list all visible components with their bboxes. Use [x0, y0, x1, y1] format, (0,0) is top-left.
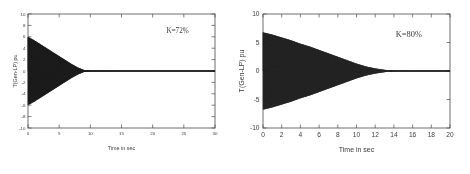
- y-tick-label: 8: [23, 23, 26, 28]
- x-tick-label: 12: [372, 131, 380, 138]
- y-tick-label: 5: [256, 39, 260, 46]
- x-tick-label: 14: [390, 131, 398, 138]
- damped-oscillation-chart-left: 051015202530-10-8-6-4-20246810K=72%Time …: [0, 0, 228, 174]
- y-tick-label: -6: [22, 103, 26, 108]
- y-tick-label: 2: [23, 57, 26, 62]
- x-tick-label: 4: [299, 131, 303, 138]
- y-tick-label: -4: [22, 91, 26, 96]
- x-tick-label: 6: [317, 131, 321, 138]
- x-tick-label: 16: [409, 131, 417, 138]
- y-tick-label: 10: [252, 10, 260, 17]
- y-tick-label: -2: [22, 80, 26, 85]
- y-tick-label: 10: [21, 12, 26, 17]
- chart-panel-right: 02468101214161820-10-50510K=80%Time in s…: [228, 0, 470, 174]
- y-tick-label: -10: [19, 126, 26, 131]
- plot-area-left: 051015202530-10-8-6-4-20246810K=72%Time …: [12, 12, 218, 151]
- x-axis-label: Time in sec: [339, 146, 375, 153]
- x-tick-label: 15: [119, 131, 124, 136]
- y-axis-label: T(Gen-LP) pu: [238, 49, 246, 92]
- y-tick-label: -8: [22, 114, 26, 119]
- x-axis-label: Time in sec: [108, 145, 136, 151]
- x-tick-label: 0: [261, 131, 265, 138]
- x-tick-label: 8: [336, 131, 340, 138]
- annotation-k-value: K=72%: [166, 27, 188, 35]
- x-tick-label: 25: [181, 131, 186, 136]
- plot-area-right: 02468101214161820-10-50510K=80%Time in s…: [238, 10, 454, 153]
- y-tick-label: -5: [254, 96, 260, 103]
- chart-panel-left: 051015202530-10-8-6-4-20246810K=72%Time …: [0, 0, 228, 174]
- x-tick-label: 2: [280, 131, 284, 138]
- y-tick-label: 4: [23, 46, 26, 51]
- y-axis-label: T(Gen-LP) pu: [12, 55, 18, 88]
- annotation-k-value: K=80%: [396, 30, 422, 39]
- damped-oscillation-chart-right: 02468101214161820-10-50510K=80%Time in s…: [228, 0, 470, 174]
- y-tick-label: 6: [23, 34, 26, 39]
- x-tick-label: 20: [446, 131, 454, 138]
- x-tick-label: 10: [88, 131, 93, 136]
- y-tick-label: 0: [256, 67, 260, 74]
- y-tick-label: -10: [250, 124, 260, 131]
- x-tick-label: 30: [213, 131, 218, 136]
- y-tick-label: 0: [23, 69, 26, 74]
- x-tick-label: 5: [58, 131, 61, 136]
- x-tick-label: 10: [353, 131, 361, 138]
- x-tick-label: 0: [27, 131, 30, 136]
- x-tick-label: 20: [150, 131, 155, 136]
- two-panel-figure: 051015202530-10-8-6-4-20246810K=72%Time …: [0, 0, 470, 174]
- x-tick-label: 18: [428, 131, 436, 138]
